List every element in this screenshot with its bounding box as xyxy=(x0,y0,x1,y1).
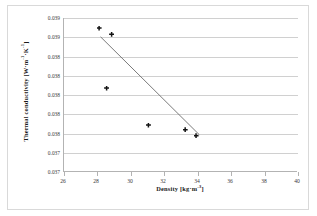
gridline-horizontal xyxy=(64,153,298,154)
x-tick-label: 30 xyxy=(120,178,140,184)
y-tick-label: 0.038 xyxy=(26,73,60,79)
y-tick-label: 0.038 xyxy=(26,92,60,98)
x-tick-label: 40 xyxy=(287,178,307,184)
gridline-horizontal xyxy=(64,76,298,77)
y-tick-label: 0.039 xyxy=(26,15,60,21)
x-tick-mark xyxy=(231,172,232,176)
gridline-horizontal xyxy=(64,18,298,19)
gridline-horizontal xyxy=(64,114,298,115)
x-tick-label: 34 xyxy=(187,178,207,184)
x-tick-mark xyxy=(131,172,132,176)
y-tick-label: 0.039 xyxy=(26,34,60,40)
y-tick-label: 0.038 xyxy=(26,54,60,60)
plot-area xyxy=(63,18,297,172)
x-tick-mark xyxy=(265,172,266,176)
data-point xyxy=(146,123,151,128)
x-tick-label: 32 xyxy=(153,178,173,184)
plot-wrapper: Density [kg·m-3] Thermal conductivity [W… xyxy=(0,0,317,216)
x-tick-mark xyxy=(97,172,98,176)
x-tick-label: 38 xyxy=(254,178,274,184)
gridline-horizontal xyxy=(64,134,298,135)
gridline-horizontal xyxy=(64,57,298,58)
x-tick-label: 28 xyxy=(86,178,106,184)
x-tick-label: 26 xyxy=(53,178,73,184)
data-point xyxy=(109,32,114,37)
x-tick-mark xyxy=(198,172,199,176)
x-tick-mark xyxy=(64,172,65,176)
y-tick-label: 0.037 xyxy=(26,150,60,156)
gridline-horizontal xyxy=(64,95,298,96)
x-tick-mark xyxy=(164,172,165,176)
y-tick-label: 0.038 xyxy=(26,111,60,117)
x-axis-title: Density [kg·m-3] xyxy=(63,185,297,192)
gridline-horizontal xyxy=(64,37,298,38)
y-tick-label: 0.037 xyxy=(26,169,60,175)
y-tick-label: 0.038 xyxy=(26,131,60,137)
x-tick-label: 36 xyxy=(220,178,240,184)
x-tick-mark xyxy=(298,172,299,176)
figure: Density [kg·m-3] Thermal conductivity [W… xyxy=(0,0,317,216)
data-point xyxy=(183,127,188,132)
data-point xyxy=(97,26,102,31)
data-point xyxy=(104,86,109,91)
